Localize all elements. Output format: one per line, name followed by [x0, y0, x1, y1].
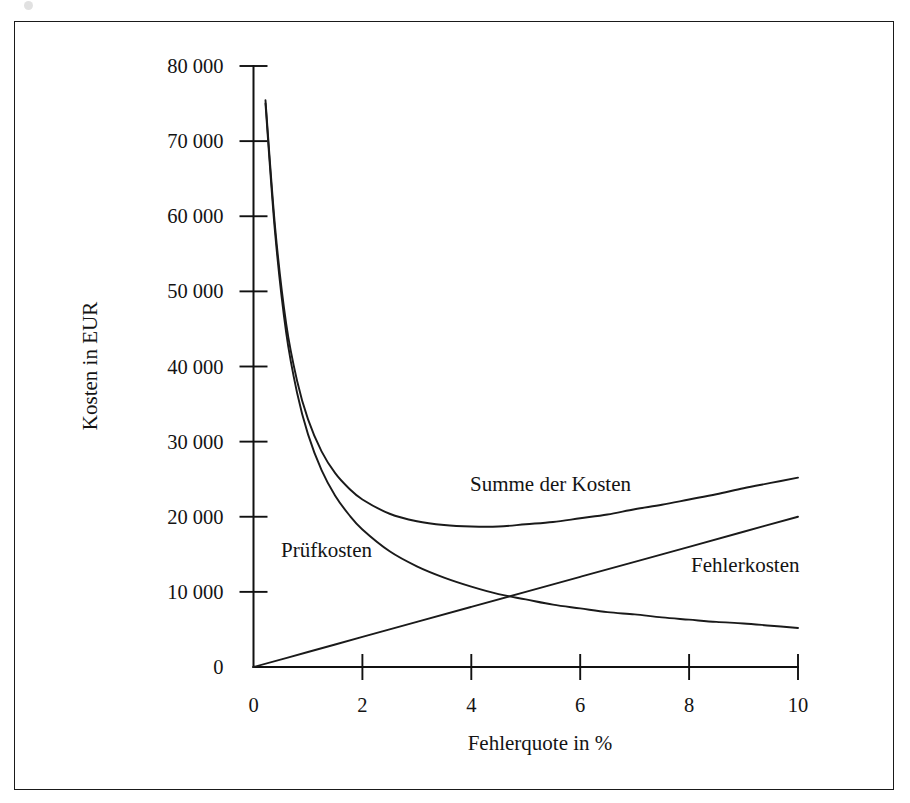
y-tick-label-50000: 50 000 — [167, 280, 223, 302]
series-curve-summe-der-kosten — [265, 100, 798, 526]
cost-quality-chart: 010 00020 00030 00040 00050 00060 00070 … — [0, 0, 910, 803]
series-label-summe-der-kosten: Summe der Kosten — [470, 472, 631, 496]
x-axis-tick-labels: 0246810 — [248, 694, 808, 716]
x-tick-label-4: 4 — [466, 694, 476, 716]
x-tick-label-6: 6 — [575, 694, 585, 716]
x-tick-label-0: 0 — [248, 694, 258, 716]
y-tick-label-10000: 10 000 — [167, 581, 223, 603]
series-label-pruefkosten: Prüfkosten — [281, 538, 372, 562]
series-label-fehlerkosten: Fehlerkosten — [691, 553, 800, 577]
x-axis-title: Fehlerquote in % — [468, 731, 613, 755]
y-tick-label-0: 0 — [213, 656, 223, 678]
x-tick-label-10: 10 — [788, 694, 809, 716]
figure-root: 010 00020 00030 00040 00050 00060 00070 … — [0, 0, 910, 803]
y-tick-label-80000: 80 000 — [167, 55, 223, 77]
y-axis-tick-labels: 010 00020 00030 00040 00050 00060 00070 … — [167, 55, 223, 678]
data-series-group — [254, 100, 799, 667]
x-tick-label-2: 2 — [357, 694, 367, 716]
x-tick-label-8: 8 — [684, 694, 694, 716]
y-tick-label-30000: 30 000 — [167, 431, 223, 453]
y-tick-label-40000: 40 000 — [167, 356, 223, 378]
y-tick-label-60000: 60 000 — [167, 205, 223, 227]
y-tick-label-70000: 70 000 — [167, 130, 223, 152]
y-axis-title: Kosten in EUR — [78, 302, 102, 430]
y-tick-label-20000: 20 000 — [167, 506, 223, 528]
